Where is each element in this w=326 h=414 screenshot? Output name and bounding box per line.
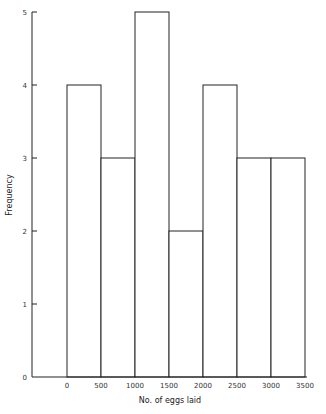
y-tick-label: 0	[23, 374, 27, 382]
x-ticks: 0500100015002000250030003500	[65, 382, 314, 390]
histogram-bar	[169, 231, 203, 377]
x-tick-label: 500	[94, 382, 107, 390]
histogram-chart: 012345 0500100015002000250030003500 No. …	[0, 0, 326, 414]
y-tick-label: 4	[23, 82, 28, 90]
x-tick-label: 3500	[296, 382, 314, 390]
histogram-bar	[203, 85, 237, 377]
histogram-bars	[67, 12, 305, 377]
x-tick-label: 1000	[126, 382, 144, 390]
y-axis-label: Frequency	[5, 174, 14, 216]
x-tick-label: 2000	[194, 382, 212, 390]
y-ticks: 012345	[23, 9, 37, 382]
histogram-bar	[237, 158, 271, 377]
x-tick-label: 2500	[228, 382, 246, 390]
histogram-bar	[67, 85, 101, 377]
y-tick-label: 1	[23, 301, 27, 309]
x-tick-label: 0	[65, 382, 69, 390]
x-tick-label: 3000	[262, 382, 280, 390]
y-tick-label: 2	[23, 228, 27, 236]
histogram-bar	[271, 158, 305, 377]
histogram-bar	[135, 12, 169, 377]
x-axis-label: No. of eggs laid	[139, 396, 201, 405]
x-tick-label: 1500	[160, 382, 178, 390]
y-tick-label: 5	[23, 9, 27, 17]
y-tick-label: 3	[23, 155, 27, 163]
histogram-bar	[101, 158, 135, 377]
